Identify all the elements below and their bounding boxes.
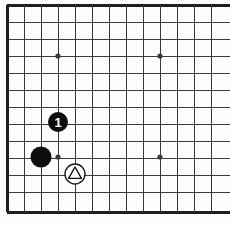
star-point-lower-left xyxy=(55,154,60,159)
black-stone-plain[interactable] xyxy=(31,147,52,168)
go-board-diagram: 1 xyxy=(0,0,230,226)
stone-move-number: 1 xyxy=(54,115,61,130)
star-point-upper-right xyxy=(157,53,162,58)
star-point-upper-left xyxy=(55,53,60,58)
go-board-canvas[interactable]: 1 xyxy=(0,0,230,226)
star-point-lower-right xyxy=(157,154,162,159)
